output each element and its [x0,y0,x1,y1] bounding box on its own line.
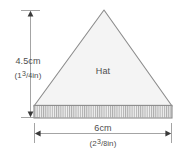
hat-triangle-shape [34,10,172,106]
shape-name-label: Hat [79,66,127,77]
width-imperial-label: (23/8in) [79,136,127,149]
width-imperial-unit: in [107,139,113,148]
height-imperial-unit: in [32,71,38,80]
hatched-base-band [34,105,172,118]
height-imperial-label: (13/4in) [4,68,52,81]
height-metric-label: 4.5cm [4,56,52,67]
width-metric-label: 6cm [79,123,127,134]
